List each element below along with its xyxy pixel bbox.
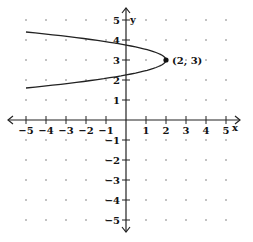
grid-dot [25,199,27,201]
grid-dot [65,99,67,101]
grid-dot [165,219,167,221]
x-tick-label: −2 [78,125,93,136]
grid-dot [205,139,207,141]
grid-dot [185,79,187,81]
grid-dot [165,79,167,81]
graph-canvas: −5−4−3−2−112345−5−4−3−2−112345 (2, 3) x … [0,0,253,242]
grid-dot [185,39,187,41]
grid-dot [25,19,27,21]
grid-dot [105,19,107,21]
grid-dot [85,99,87,101]
x-tick-label: 3 [183,125,190,136]
grid-dot [185,219,187,221]
grid-dot [145,179,147,181]
grid-dot [145,219,147,221]
grid-dot [165,159,167,161]
grid-dot [65,159,67,161]
grid-dot [65,79,67,81]
x-tick-label: −5 [18,125,33,136]
grid-dot [85,59,87,61]
grid-dot [25,39,27,41]
y-tick-label: −1 [105,135,120,146]
grid-dot [25,219,27,221]
grid-dot [145,139,147,141]
grid-dot [65,179,67,181]
grid-dot [145,19,147,21]
grid-dot [105,99,107,101]
grid-dot [145,39,147,41]
grid-dot [185,99,187,101]
grid-dot [205,79,207,81]
grid-dot [45,79,47,81]
grid-dot [205,19,207,21]
x-axis [8,116,240,124]
grid-dot [105,59,107,61]
grid-dot [105,79,107,81]
grid-dot [45,19,47,21]
grid-dot [105,39,107,41]
grid-dot [45,219,47,221]
x-tick-label: 1 [143,125,150,136]
grid-dot [65,139,67,141]
grid-dot [165,39,167,41]
x-tick-label: −3 [58,125,73,136]
grid-dot [45,139,47,141]
grid-dot [205,99,207,101]
grid-dot [25,139,27,141]
y-axis-label: y [129,14,137,25]
grid-dot [205,59,207,61]
y-tick-label: 3 [113,55,120,66]
grid-dot [205,179,207,181]
coordinate-graph: −5−4−3−2−112345−5−4−3−2−112345 (2, 3) x … [0,0,253,242]
grid-dot [185,139,187,141]
x-tick-label: 5 [223,125,230,136]
grid-dot [45,39,47,41]
grid-dot [85,19,87,21]
grid-dot [65,39,67,41]
grid-dot [65,219,67,221]
grid-dot [65,59,67,61]
grid-dot [185,199,187,201]
grid-dot [225,219,227,221]
grid-dot [165,99,167,101]
vertex-label: (2, 3) [172,55,202,67]
grid-dot [225,159,227,161]
grid-dot [225,199,227,201]
grid-dot [85,139,87,141]
grid-dot [45,159,47,161]
grid-dot [225,79,227,81]
grid-dot [85,159,87,161]
grid-dot [165,139,167,141]
grid-dot [205,39,207,41]
grid-dot [45,199,47,201]
x-tick-label: 2 [163,125,170,136]
y-tick-label: −4 [105,195,120,206]
y-tick-label: 5 [113,15,120,26]
grid-dot [165,19,167,21]
y-tick-label: −2 [105,155,120,166]
grid-dot [205,199,207,201]
grid-dot [185,179,187,181]
y-tick-label: −3 [105,175,120,186]
grid-dot [225,179,227,181]
grid-dot [145,199,147,201]
grid-dot [85,219,87,221]
grid-dot [85,199,87,201]
grid-dot [145,159,147,161]
grid-dot [145,99,147,101]
grid-dot [25,79,27,81]
grid-dot [65,19,67,21]
grid-dot [25,99,27,101]
grid-dot [65,199,67,201]
grid-dot [25,159,27,161]
grid-dot [185,19,187,21]
grid-dot [45,179,47,181]
grid-dot [145,59,147,61]
grid-dot [225,139,227,141]
grid-dot [225,19,227,21]
grid-dot [25,59,27,61]
grid-dot [45,99,47,101]
vertex-point [163,57,168,62]
grid-dot [165,179,167,181]
y-tick-label: −5 [105,215,120,226]
